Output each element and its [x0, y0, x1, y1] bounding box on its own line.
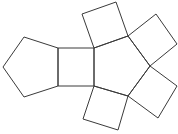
square-top	[82, 2, 128, 48]
pentagon-left	[3, 37, 58, 97]
square-upper-right	[128, 14, 177, 66]
square-middle	[58, 48, 94, 86]
square-lower-right	[128, 66, 177, 118]
square-bottom	[83, 86, 128, 130]
prism-net-diagram	[0, 0, 178, 134]
